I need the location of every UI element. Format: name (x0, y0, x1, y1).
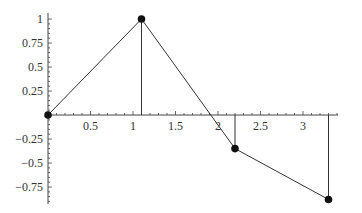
y-tick-label: 0.5 (28, 60, 43, 74)
drop-lines (142, 19, 329, 199)
y-tick-label: −0.75 (15, 180, 43, 194)
data-point-marker (325, 196, 333, 204)
y-tick-label: 0.25 (22, 84, 43, 98)
x-tick-label: 0.5 (83, 119, 98, 133)
x-tick-label: 2.5 (253, 119, 268, 133)
x-axis-tick-labels: 0.511.522.53 (83, 119, 306, 133)
line-chart: 0.511.522.53 10.750.50.25−0.25−0.5−0.75 (0, 0, 362, 213)
x-tick-label: 3 (300, 119, 306, 133)
data-series (48, 19, 329, 199)
y-tick-label: −0.25 (15, 132, 43, 146)
data-markers (44, 15, 332, 203)
x-tick-label: 1.5 (168, 119, 183, 133)
y-axis-tick-labels: 10.750.50.25−0.25−0.5−0.75 (15, 12, 43, 194)
data-point-marker (138, 15, 146, 23)
series-line (48, 19, 329, 199)
axes (48, 13, 338, 204)
y-tick-label: 1 (37, 12, 43, 26)
x-tick-label: 1 (130, 119, 136, 133)
y-tick-label: −0.5 (21, 156, 43, 170)
y-tick-label: 0.75 (22, 36, 43, 50)
data-point-marker (231, 145, 239, 153)
x-tick-label: 2 (215, 119, 221, 133)
data-point-marker (44, 111, 52, 119)
